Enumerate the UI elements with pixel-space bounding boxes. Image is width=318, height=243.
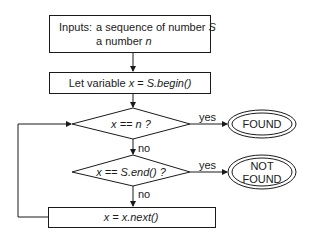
decision1-no-label: no <box>138 142 150 154</box>
terminal-not-found-line1: NOT <box>250 160 273 172</box>
decision2-yes-label: yes <box>199 159 216 171</box>
terminal-not-found-line2: FOUND <box>242 173 281 185</box>
init-eq: = <box>134 77 147 89</box>
init-text: Let variable <box>69 77 126 89</box>
input-line2-text: a number <box>96 35 142 47</box>
decision2-text: x == S.end() ? <box>96 166 166 178</box>
terminal-found-text: FOUND <box>242 118 281 130</box>
decision1-yes-label: yes <box>199 111 216 123</box>
input-line2-var: n <box>146 35 152 47</box>
next-box-text: x = x.next() <box>104 211 159 223</box>
input-line1-var: S <box>209 21 216 33</box>
init-box-text: Let variable x = S.begin() <box>69 77 192 89</box>
decision1-text: x == n ? <box>111 118 151 130</box>
input-line2: a number n <box>96 35 152 47</box>
decision2-no-label: no <box>138 188 150 200</box>
init-call: S.begin() <box>147 77 192 89</box>
input-label-prefix: Inputs: <box>59 21 92 33</box>
input-line1: a sequence of number S <box>96 21 216 33</box>
input-line1-text: a sequence of number <box>96 21 205 33</box>
arrow-loop-back <box>18 124 71 217</box>
